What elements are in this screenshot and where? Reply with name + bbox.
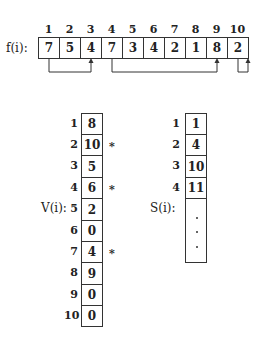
s-cell: 1 (185, 113, 207, 135)
ellipsis-dot (196, 217, 198, 219)
v-index: 8 (64, 262, 78, 283)
arrowhead-icon (215, 58, 220, 63)
s-index: 2 (166, 134, 180, 155)
v-cell: 0 (81, 220, 103, 242)
asterisk-marker: * (109, 243, 115, 264)
v-cell: 9 (81, 262, 103, 285)
v-index: 2 (64, 134, 78, 155)
s-index: 3 (166, 155, 180, 176)
v-index: 3 (64, 155, 78, 176)
v-index: 6 (64, 220, 78, 241)
arrowhead-icon (246, 58, 251, 63)
v-index: 9 (64, 284, 78, 305)
v-index: 10 (64, 305, 78, 326)
pointer-arrows (0, 0, 261, 90)
v-index: 1 (64, 113, 78, 134)
v-cell: 8 (81, 113, 103, 135)
arrow-1-to-3 (49, 59, 91, 72)
s-array-label: S(i): (150, 201, 175, 215)
s-cell: 11 (185, 177, 207, 199)
s-cell: 4 (185, 134, 207, 156)
v-cell: 10 (81, 134, 103, 156)
asterisk-marker: * (109, 136, 115, 157)
v-cell: 0 (81, 284, 103, 306)
asterisk-marker: * (109, 179, 115, 200)
v-cell: 0 (81, 305, 103, 327)
s-cell: 10 (185, 155, 207, 178)
s-index: 1 (166, 113, 180, 134)
ellipsis-dot (196, 246, 198, 248)
v-index: 5 (64, 198, 78, 219)
s-index: 4 (166, 177, 180, 198)
arrowhead-icon (89, 58, 94, 63)
v-cell: 5 (81, 155, 103, 178)
ellipsis-dot (196, 231, 198, 233)
v-index: 7 (64, 241, 78, 262)
arrow-4-to-9 (112, 59, 217, 72)
v-cell: 2 (81, 198, 103, 221)
v-index: 4 (64, 177, 78, 198)
arrow-10-to-10 (238, 59, 248, 72)
v-cell: 6 (81, 177, 103, 199)
v-cell: 4 (81, 241, 103, 263)
